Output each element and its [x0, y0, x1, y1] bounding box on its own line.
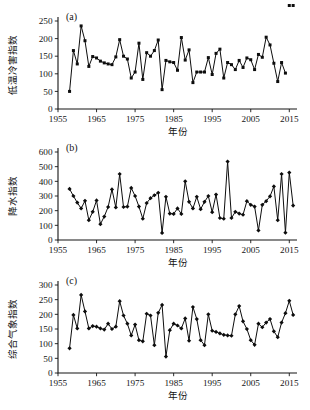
y-tick-label: 500 — [39, 162, 53, 172]
data-point-marker — [191, 206, 195, 210]
data-point-marker — [183, 179, 187, 183]
data-point-marker — [98, 326, 102, 330]
data-point-marker — [206, 312, 210, 316]
x-tick-label: 1995 — [203, 114, 222, 124]
x-tick-label: 1965 — [87, 378, 106, 388]
data-point-marker — [234, 68, 237, 71]
data-point-marker — [222, 217, 226, 221]
y-tick-label: 100 — [39, 339, 53, 349]
data-point-marker — [141, 339, 145, 343]
data-point-marker — [287, 299, 291, 303]
data-point-marker — [211, 73, 214, 76]
data-point-marker — [291, 313, 295, 317]
y-tick-label: 400 — [39, 177, 53, 187]
data-point-marker — [241, 213, 245, 217]
data-point-marker — [129, 186, 133, 190]
chart-svg-b: 0100200300400500600195519651975198519952… — [0, 135, 310, 268]
data-point-marker — [265, 36, 268, 39]
data-point-marker — [75, 326, 79, 330]
data-point-marker — [279, 320, 283, 324]
x-tick-label: 1955 — [49, 245, 68, 255]
data-point-marker — [214, 330, 218, 334]
x-tick-label: 2005 — [242, 378, 261, 388]
data-point-marker — [87, 65, 90, 68]
data-point-marker — [226, 61, 229, 64]
data-point-marker — [195, 195, 199, 199]
x-axis-title: 年份 — [168, 390, 188, 401]
x-tick-label: 1975 — [126, 245, 145, 255]
data-point-marker — [238, 59, 241, 62]
chart-panel-a: 0501001502002501955196519751985199520052… — [0, 4, 310, 137]
data-point-marker — [207, 56, 210, 59]
x-tick-label: 1975 — [126, 378, 145, 388]
data-point-marker — [107, 62, 110, 65]
data-point-marker — [110, 63, 113, 66]
data-point-marker — [118, 172, 122, 176]
data-point-marker — [184, 59, 187, 62]
data-point-marker — [191, 81, 194, 84]
data-point-marker — [168, 328, 172, 332]
data-point-marker — [121, 313, 125, 317]
data-point-marker — [156, 311, 160, 315]
x-tick-label: 2005 — [242, 114, 261, 124]
chart-panel-b: 0100200300400500600195519651975198519952… — [0, 135, 310, 268]
data-point-marker — [68, 90, 71, 93]
data-point-marker — [210, 210, 214, 214]
data-point-marker — [199, 71, 202, 74]
data-point-marker — [214, 192, 218, 196]
panel-tag: (a) — [66, 11, 77, 23]
x-tick-label: 1985 — [164, 245, 183, 255]
x-tick-label: 2015 — [280, 114, 299, 124]
data-point-marker — [83, 309, 87, 313]
data-point-marker — [218, 216, 222, 220]
data-point-marker — [164, 59, 167, 62]
data-point-marker — [283, 311, 287, 315]
data-point-marker — [172, 322, 176, 326]
y-tick-label: 0 — [48, 368, 53, 378]
data-point-marker — [153, 49, 156, 52]
data-point-marker — [222, 77, 225, 80]
data-point-marker — [191, 305, 195, 309]
x-tick-label: 1985 — [164, 114, 183, 124]
data-point-marker — [102, 214, 106, 218]
data-point-marker — [122, 55, 125, 58]
axis-lines — [58, 17, 297, 109]
y-tick-label: 150 — [39, 51, 53, 61]
data-point-marker — [152, 343, 156, 347]
data-point-marker — [215, 52, 218, 55]
data-point-marker — [141, 78, 144, 81]
data-point-marker — [226, 159, 230, 163]
data-point-marker — [118, 38, 121, 41]
x-tick-label: 1955 — [49, 114, 68, 124]
data-point-marker — [242, 66, 245, 69]
data-point-marker — [110, 187, 114, 191]
x-tick-label: 1995 — [203, 378, 222, 388]
y-tick-label: 0 — [48, 104, 53, 114]
data-point-marker — [210, 329, 214, 333]
chart-svg-a: 0501001502002501955196519751985199520052… — [0, 4, 310, 137]
data-point-marker — [133, 194, 137, 198]
y-tick-label: 100 — [39, 69, 53, 79]
y-tick-label: 600 — [39, 147, 53, 157]
data-point-marker — [91, 210, 95, 214]
data-point-marker — [226, 333, 230, 337]
x-axis-title: 年份 — [168, 257, 188, 268]
data-point-marker — [121, 205, 125, 209]
data-point-marker — [87, 218, 91, 222]
x-tick-label: 1965 — [87, 114, 106, 124]
data-point-marker — [203, 71, 206, 74]
data-point-marker — [241, 319, 245, 323]
data-point-marker — [237, 212, 241, 216]
data-point-marker — [94, 198, 98, 202]
y-axis-title: 低温冷害指数 — [7, 35, 18, 95]
data-point-marker — [133, 323, 137, 327]
data-point-marker — [269, 43, 272, 46]
data-point-marker — [287, 170, 291, 174]
data-point-marker — [134, 71, 137, 74]
data-point-marker — [129, 333, 133, 337]
data-point-marker — [279, 172, 283, 176]
x-tick-label: 1985 — [164, 378, 183, 388]
data-point-marker — [148, 313, 152, 317]
panel-tag: (b) — [66, 142, 78, 154]
x-tick-label: 1955 — [49, 378, 68, 388]
